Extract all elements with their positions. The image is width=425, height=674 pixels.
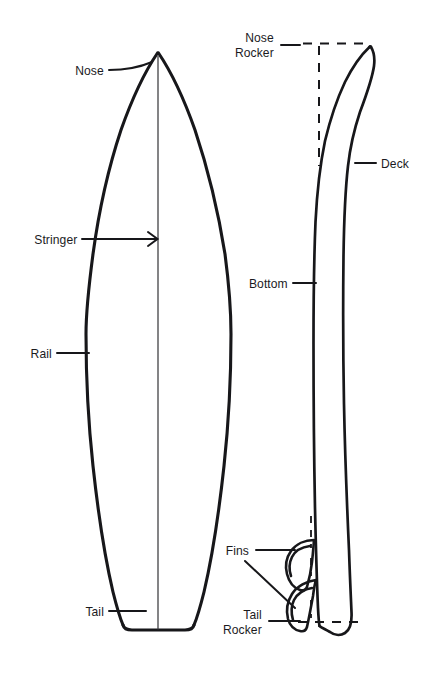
label-fins: Fins	[226, 543, 249, 558]
board-profile-view	[286, 44, 374, 635]
label-rail: Rail	[31, 346, 52, 361]
bottom-profile-curve	[314, 47, 370, 626]
surfboard-anatomy-diagram: Nose Stringer Rail Tail Nose Rocker Deck…	[0, 0, 425, 674]
label-tail-rocker: Tail Rocker	[223, 607, 262, 637]
diagram-canvas	[0, 0, 425, 674]
label-bottom: Bottom	[249, 276, 288, 291]
label-stringer: Stringer	[34, 232, 77, 247]
label-tail: Tail	[85, 604, 104, 619]
left-rail-outline	[86, 53, 158, 625]
label-nose: Nose	[75, 63, 104, 78]
fins-leader-line-lower	[245, 561, 295, 608]
label-nose-rocker: Nose Rocker	[235, 30, 274, 60]
nose-tip-cap-profile	[370, 46, 372, 47]
board-outline-view	[86, 53, 231, 630]
right-rail-outline	[159, 53, 232, 625]
label-deck: Deck	[381, 156, 409, 171]
nose-leader-line	[109, 62, 152, 70]
